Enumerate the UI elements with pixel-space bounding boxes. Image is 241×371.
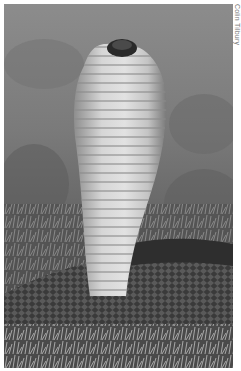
photo-credit: Colin Tilbury (233, 4, 241, 74)
cobra-photo (4, 4, 233, 368)
cobra-illustration (4, 4, 233, 368)
photo-credit-text: Colin Tilbury (234, 4, 241, 45)
